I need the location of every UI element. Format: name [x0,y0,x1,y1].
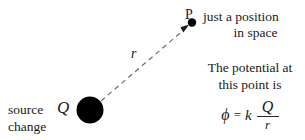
arrowhead-icon [181,25,190,33]
electric-potential-diagram: P r Q source change just a position in s… [0,0,305,140]
formula-denominator-r: r [265,118,270,131]
source-caption-line-1: source [8,101,46,118]
charge-symbol-q: Q [57,99,69,116]
source-caption-line-2: change [8,118,46,135]
potential-note-line-1: The potential at [196,59,304,76]
position-note-line-1: just a position [200,9,305,25]
formula-phi-symbol: ϕ [221,106,229,124]
position-note: just a position in space [200,9,305,41]
potential-note-line-2: this point is [196,76,304,93]
formula-numerator-q: Q [259,99,277,114]
point-p-label: P [185,8,193,22]
potential-formula: ϕ = k Q r [196,99,304,131]
source-charge-caption: source change [8,101,46,135]
source-charge-circle [77,97,104,124]
distance-label-r: r [131,47,136,61]
potential-note: The potential at this point is [196,59,304,93]
formula-equals-sign: = [234,107,241,123]
formula-coefficient-k: k [245,107,252,124]
formula-fraction: Q r [257,99,279,131]
distance-dashed-line [101,28,186,101]
position-note-line-2: in space [200,25,305,41]
